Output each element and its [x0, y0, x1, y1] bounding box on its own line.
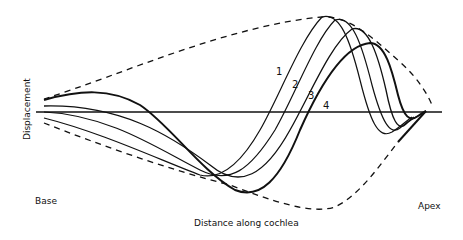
x-axis-label: Distance along cochlea	[194, 218, 299, 228]
wave-curve-2	[44, 19, 414, 175]
envelope-lower	[44, 123, 398, 209]
wave-curve-1	[44, 16, 412, 176]
curve-label-2: 2	[292, 79, 298, 90]
cochlea-traveling-wave-diagram: 1 2 3 4 Displacement Base Apex Distance …	[0, 0, 463, 240]
curve-label-1: 1	[276, 66, 282, 77]
curve-label-4: 4	[323, 100, 329, 111]
y-axis-label: Displacement	[22, 78, 32, 140]
curve-label-3: 3	[308, 90, 314, 101]
diagram-plot	[0, 0, 463, 240]
apex-label: Apex	[418, 201, 441, 211]
wave-curve-4	[44, 43, 426, 193]
base-label: Base	[35, 196, 57, 206]
